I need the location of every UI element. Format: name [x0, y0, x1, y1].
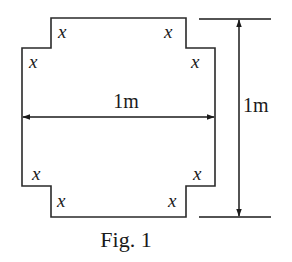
corner-label-top-right-upper: x	[163, 21, 173, 42]
corner-label-bottom-left-upper: x	[31, 163, 41, 184]
corner-label-top-left-lower: x	[28, 51, 38, 72]
corner-label-bottom-right-lower: x	[167, 190, 177, 211]
width-label: 1m	[113, 90, 139, 112]
corner-label-top-right-lower: x	[190, 51, 200, 72]
corner-label-top-left-upper: x	[57, 21, 67, 42]
figure-caption: Fig. 1	[100, 227, 151, 252]
corner-label-bottom-left-lower: x	[56, 190, 66, 211]
corner-label-bottom-right-upper: x	[192, 163, 202, 184]
height-label: 1m	[243, 94, 269, 116]
figure-diagram: 1m 1m x x x x x x x x Fig. 1	[0, 0, 292, 262]
